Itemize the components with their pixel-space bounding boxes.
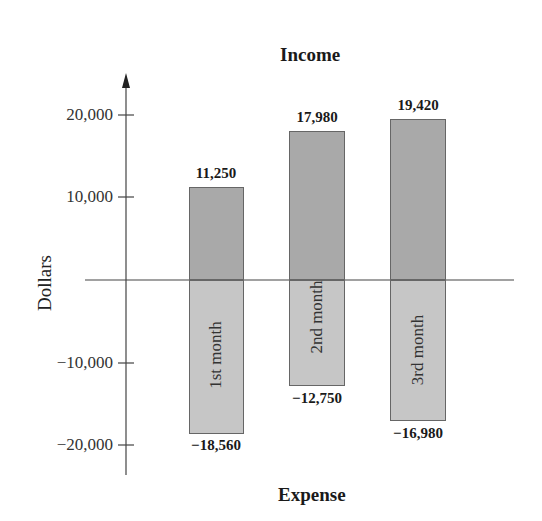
- income-value-label: 17,980: [267, 109, 367, 126]
- category-label: 3rd month: [408, 300, 428, 400]
- income-value-label: 19,420: [368, 97, 468, 114]
- y-axis-label: Dollars: [34, 248, 56, 318]
- income-expense-chart: Income Expense Dollars 20,000 10,000 −10…: [0, 0, 542, 521]
- income-value-label: 11,250: [166, 165, 266, 182]
- category-label: 2nd month: [307, 267, 327, 367]
- expense-title: Expense: [278, 484, 346, 506]
- income-title: Income: [280, 44, 340, 66]
- income-bar-2nd-month: [289, 131, 345, 280]
- y-axis-arrow-icon: [122, 73, 130, 88]
- ytick-label: 10,000: [13, 187, 113, 207]
- ytick-label: −20,000: [13, 435, 113, 455]
- ytick-label: 20,000: [13, 105, 113, 125]
- expense-value-label: −18,560: [166, 437, 266, 454]
- expense-value-label: −16,980: [368, 425, 468, 442]
- income-bar-1st-month: [189, 187, 244, 280]
- ytick-label: −10,000: [13, 353, 113, 373]
- income-bar-3rd-month: [390, 119, 446, 280]
- expense-value-label: −12,750: [267, 390, 367, 407]
- category-label: 1st month: [206, 305, 226, 405]
